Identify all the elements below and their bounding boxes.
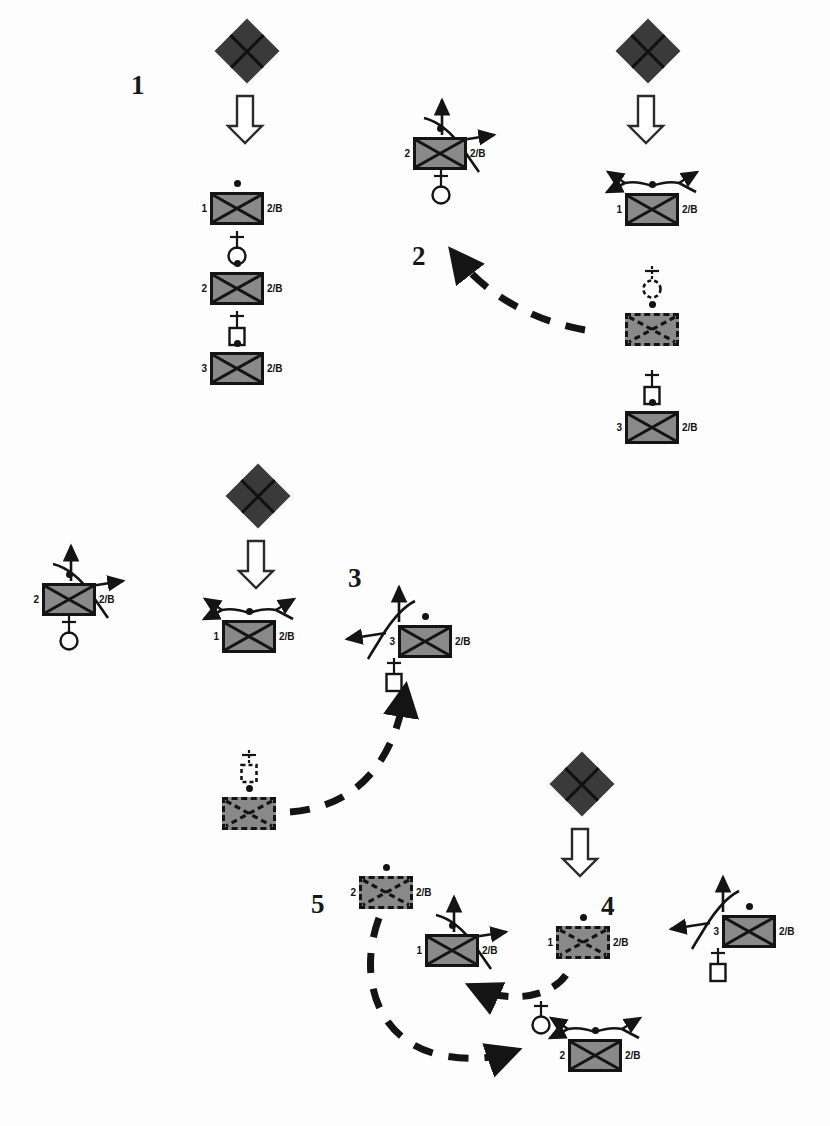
unit-top-dot (746, 903, 753, 910)
x-cross-icon (42, 583, 96, 616)
unit-box[interactable]: 3 2/B (722, 915, 776, 948)
unit-right-label: 2/B (682, 205, 698, 215)
x-cross-icon (425, 934, 479, 967)
x-cross-icon-dashed (222, 797, 276, 830)
unit-left-label: 3 (389, 637, 395, 647)
unit-left-label: 3 (713, 927, 719, 937)
unit-right-label: 2/B (625, 1051, 641, 1061)
circle-connector-icon (433, 170, 450, 204)
unit-top-dot (246, 785, 253, 792)
unit-left-label: 1 (201, 204, 207, 214)
unit-right-label: 2/B (470, 149, 486, 159)
unit-box-dashed[interactable] (222, 797, 276, 830)
unit-box-dashed[interactable] (625, 313, 679, 346)
unit-top-dot (649, 399, 656, 406)
x-cross-icon (222, 620, 276, 653)
unit-left-label: 2 (350, 888, 356, 898)
unit-box[interactable]: 3 2/B (210, 352, 264, 385)
x-cross-icon-dashed (625, 313, 679, 346)
unit-top-dot (422, 613, 429, 620)
unit-left-label: 2 (404, 149, 410, 159)
unit-right-label: 2/B (267, 284, 283, 294)
unit-top-dot (437, 125, 444, 132)
group-label-1: 1 (131, 72, 145, 99)
unit-box[interactable]: 1 2/B (210, 192, 264, 225)
unit-top-dot (234, 180, 241, 187)
unit-right-label: 2/B (482, 946, 498, 956)
unit-right-label: 2/B (416, 888, 432, 898)
unit-top-dot (66, 571, 73, 578)
x-cross-icon-dashed (359, 876, 413, 909)
group-label-4: 4 (601, 893, 615, 920)
square-connector-icon (387, 658, 402, 691)
circle-connector-icon-dashed (644, 266, 661, 298)
unit-box-dashed[interactable]: 1 2/B (556, 926, 610, 959)
group-label-5: 5 (311, 891, 325, 918)
unit-top-dot (580, 914, 587, 921)
unit-box[interactable]: 2 2/B (42, 583, 96, 616)
unit-right-label: 2/B (99, 595, 115, 605)
unit-left-label: 2 (559, 1051, 565, 1061)
unit-right-label: 2/B (682, 423, 698, 433)
unit-left-label: 2 (201, 284, 207, 294)
diagram-canvas: 1 2/B 2 2/B 3 2/B (0, 0, 830, 1126)
x-cross-icon (722, 915, 776, 948)
unit-left-label: 3 (201, 364, 207, 374)
unit-box[interactable]: 2 2/B (568, 1039, 622, 1072)
unit-left-label: 1 (416, 946, 422, 956)
unit-right-label: 2/B (613, 938, 629, 948)
unit-left-label: 3 (616, 423, 622, 433)
square-connector-icon (711, 948, 726, 981)
unit-box[interactable]: 1 2/B (222, 620, 276, 653)
unit-left-label: 1 (213, 632, 219, 642)
unit-box[interactable]: 1 2/B (425, 934, 479, 967)
x-cross-icon (625, 193, 679, 226)
unit-box-dashed[interactable]: 2 2/B (359, 876, 413, 909)
circle-connector-icon (61, 616, 78, 650)
unit-top-dot (234, 340, 241, 347)
unit-box[interactable]: 2 2/B (210, 272, 264, 305)
unit-right-label: 2/B (455, 637, 471, 647)
unit-box[interactable]: 1 2/B (625, 193, 679, 226)
unit-box[interactable]: 3 2/B (625, 411, 679, 444)
x-cross-icon (413, 137, 467, 170)
x-cross-icon (210, 192, 264, 225)
x-cross-icon (210, 272, 264, 305)
group-label-2: 2 (412, 243, 426, 270)
unit-right-label: 2/B (267, 204, 283, 214)
unit-left-label: 2 (33, 595, 39, 605)
unit-right-label: 2/B (279, 632, 295, 642)
unit-top-dot (649, 301, 656, 308)
unit-top-dot (246, 608, 253, 615)
unit-left-label: 1 (616, 205, 622, 215)
x-cross-icon (398, 625, 452, 658)
unit-top-dot (383, 864, 390, 871)
circle-connector-icon (533, 1001, 550, 1034)
unit-box[interactable]: 2 2/B (413, 137, 467, 170)
unit-top-dot (234, 260, 241, 267)
x-cross-icon-dashed (556, 926, 610, 959)
x-cross-icon (568, 1039, 622, 1072)
square-connector-icon-dashed (242, 750, 257, 782)
unit-left-label: 1 (547, 938, 553, 948)
x-cross-icon (625, 411, 679, 444)
unit-box[interactable]: 3 2/B (398, 625, 452, 658)
unit-right-label: 2/B (779, 927, 795, 937)
unit-right-label: 2/B (267, 364, 283, 374)
unit-top-dot (449, 922, 456, 929)
x-cross-icon (210, 352, 264, 385)
group-label-3: 3 (348, 565, 362, 592)
unit-top-dot (592, 1027, 599, 1034)
unit-top-dot (649, 181, 656, 188)
